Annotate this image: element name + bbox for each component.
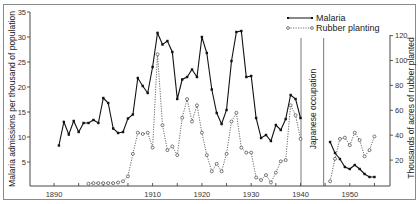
data-point (196, 76, 198, 78)
data-point (368, 149, 371, 152)
y-left-title: Malaria admissions per thousand of popul… (7, 11, 17, 187)
data-point (126, 175, 129, 178)
x-tick-label: 1920 (194, 190, 211, 199)
data-point (171, 51, 173, 53)
data-point (58, 144, 60, 146)
data-point (166, 149, 169, 152)
data-point (269, 181, 272, 184)
data-point (102, 182, 105, 185)
data-point (358, 168, 360, 170)
data-point (284, 159, 287, 162)
data-point (151, 146, 154, 149)
series-rubber-planting (87, 53, 376, 185)
data-point (146, 92, 148, 94)
data-point (176, 98, 178, 100)
data-point (240, 146, 243, 149)
data-point (171, 145, 174, 148)
data-point (285, 118, 287, 120)
data-point (146, 131, 149, 134)
data-point (97, 122, 99, 124)
y-right-tick-label: 40 (395, 131, 403, 140)
data-point (265, 134, 267, 136)
series-line (59, 31, 301, 146)
y-left-tick-label: 5 (22, 158, 26, 167)
data-point (141, 132, 144, 135)
data-point (201, 36, 203, 38)
data-point (260, 179, 263, 182)
series-line (330, 133, 374, 182)
data-point (92, 182, 95, 185)
data-point (73, 120, 75, 122)
data-point (210, 170, 213, 173)
y-right-tick-label: 60 (395, 106, 403, 115)
data-point (107, 182, 110, 185)
data-point (289, 104, 292, 107)
x-tick-label: 1910 (144, 190, 161, 199)
data-point (280, 129, 282, 131)
y-left-tick-label: 25 (18, 58, 26, 67)
data-point (117, 181, 120, 184)
data-point (63, 121, 65, 123)
data-point (368, 176, 370, 178)
data-point (206, 52, 208, 54)
data-point (343, 136, 346, 139)
data-point (373, 135, 376, 138)
x-tick-label: 1940 (292, 190, 309, 199)
y-left-tick-label: 30 (18, 33, 26, 42)
data-point (294, 98, 296, 100)
data-point (255, 176, 258, 179)
data-point (200, 131, 203, 134)
legend-malaria-marker (311, 17, 313, 19)
data-point (294, 114, 297, 117)
data-point (112, 182, 115, 185)
data-point (122, 180, 125, 183)
data-point (373, 176, 375, 178)
data-point (112, 127, 114, 129)
plot-area: Japanese occupation (58, 30, 376, 186)
data-point (102, 97, 104, 99)
data-point (329, 141, 331, 143)
data-point (161, 43, 163, 45)
data-point (339, 158, 341, 160)
data-point (329, 180, 332, 183)
data-point (349, 168, 351, 170)
data-point (225, 152, 228, 155)
data-point (363, 173, 365, 175)
data-point (142, 85, 144, 87)
series-malaria (58, 30, 376, 178)
data-point (264, 174, 267, 177)
y-right-tick-label: 80 (395, 81, 403, 90)
data-point (195, 104, 198, 107)
chart: 5101520253035204060801001201890191019201… (0, 0, 420, 204)
data-point (132, 113, 134, 115)
data-point (299, 137, 302, 140)
data-point (220, 170, 223, 173)
data-point (131, 152, 134, 155)
y-left-tick-label: 20 (18, 83, 26, 92)
data-point (68, 133, 70, 135)
data-point (205, 154, 208, 157)
data-point (176, 154, 179, 157)
data-point (151, 66, 153, 68)
data-point (82, 122, 84, 124)
data-point (181, 116, 184, 119)
data-point (230, 120, 233, 123)
data-point (225, 109, 227, 111)
data-point (250, 75, 252, 77)
legend-rubber-marker (287, 27, 290, 30)
legend: MalariaRubber planting (287, 13, 380, 33)
data-point (250, 151, 253, 154)
data-point (344, 166, 346, 168)
data-point (240, 30, 242, 32)
data-point (166, 40, 168, 42)
data-point (363, 155, 366, 158)
data-point (275, 124, 277, 126)
data-point (211, 88, 213, 90)
data-point (87, 182, 90, 185)
data-point (274, 171, 277, 174)
data-point (215, 162, 218, 165)
data-point (255, 117, 257, 119)
x-tick-label: 1950 (341, 190, 358, 199)
data-point (97, 182, 100, 185)
data-point (186, 76, 188, 78)
